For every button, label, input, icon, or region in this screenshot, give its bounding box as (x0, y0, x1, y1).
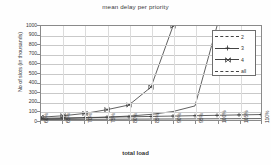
legend-label-all: all (241, 68, 246, 74)
y-tick-1000: 1000 (13, 23, 37, 28)
chart-figure: mean delay per priority No of slots (in … (0, 0, 271, 165)
x-tick-75: 75% (110, 113, 116, 123)
legend-swatch-4 (215, 55, 239, 65)
x-axis-tick-labels: 60% 65% 70% 75% 80% 85% 90% 95% 100% 105… (40, 123, 262, 149)
y-tick-300: 300 (13, 90, 37, 95)
x-tick-70: 70% (87, 113, 93, 123)
y-tick-400: 400 (13, 80, 37, 85)
legend-label-2: 2 (241, 34, 244, 40)
x-tick-110: 110% (264, 111, 270, 123)
y-tick-700: 700 (13, 51, 37, 56)
y-tick-600: 600 (13, 61, 37, 66)
x-axis-title: total load (0, 150, 271, 156)
plus-marker-icon (225, 45, 230, 51)
y-tick-0: 0 (13, 119, 37, 124)
y-tick-500: 500 (13, 71, 37, 76)
bowtie-marker-icon (225, 57, 231, 63)
legend-swatch-all (215, 66, 239, 76)
x-tick-80: 80% (132, 113, 138, 123)
x-tick-60: 60% (43, 113, 49, 123)
y-tick-200: 200 (13, 99, 37, 104)
legend-label-3: 3 (241, 45, 244, 51)
legend-item-3[interactable]: 3 (213, 43, 255, 55)
x-tick-100: 100% (221, 110, 227, 123)
x-tick-90: 90% (176, 113, 182, 123)
x-tick-65: 65% (65, 113, 71, 123)
y-axis-tick-labels: 1000 900 800 700 600 500 400 300 200 100… (10, 25, 37, 121)
legend-item-all[interactable]: all (213, 66, 255, 78)
x-tick-95: 95% (198, 113, 204, 123)
y-tick-800: 800 (13, 42, 37, 47)
legend-swatch-2 (215, 32, 239, 42)
chart-legend[interactable]: 2 3 4 all (212, 30, 256, 76)
chart-title: mean delay per priority (0, 3, 271, 10)
legend-swatch-3 (215, 43, 239, 53)
x-tick-105: 105% (243, 110, 249, 123)
legend-item-4[interactable]: 4 (213, 54, 255, 66)
y-tick-900: 900 (13, 32, 37, 37)
y-tick-100: 100 (13, 109, 37, 114)
x-tick-85: 85% (154, 113, 160, 123)
legend-item-2[interactable]: 2 (213, 31, 255, 43)
legend-label-4: 4 (241, 57, 244, 63)
